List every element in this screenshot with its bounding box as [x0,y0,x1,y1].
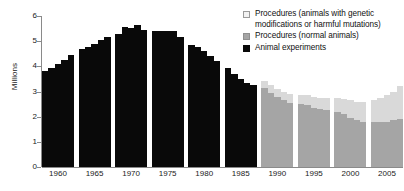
legend-item-normal[interactable]: Procedures (normal animals) [243,31,404,42]
x-tick-label: 1970 [114,170,148,178]
legend: Procedures (animals with genetic modific… [243,9,404,55]
y-tick-mark [37,92,41,93]
y-tick-mark [37,66,41,67]
bar-segment-animal-experiments [141,30,147,167]
y-tick-mark [37,41,41,42]
bar [68,16,74,167]
bar-segment-genetic [360,102,366,122]
bar-segment-normal-animals [397,119,403,167]
bar [141,16,147,167]
y-axis-title: Millions [10,42,19,112]
y-tick-label: 5 [24,37,37,45]
x-tick-label: 2005 [370,170,404,178]
bar-segment-animal-experiments [214,61,220,167]
y-tick-label: 2 [24,113,37,121]
x-tick-label: 1990 [260,170,294,178]
bar-segment-normal-animals [287,103,293,167]
legend-swatch-normal-icon [243,33,250,40]
bar-segment-genetic [323,98,329,111]
legend-item-genetic[interactable]: Procedures (animals with genetic modific… [243,9,404,30]
x-axis-line [42,167,403,168]
bar-segment-animal-experiments [104,37,110,167]
bar [214,16,220,167]
legend-swatch-animal-experiments-icon [243,45,250,52]
y-tick-mark [37,167,41,168]
bar [104,16,110,167]
x-tick-label: 1980 [187,170,221,178]
legend-label-genetic: Procedures (animals with genetic modific… [255,9,404,30]
bar-chart: Millions 0123456 19601965197019751980198… [0,0,404,191]
bar-segment-genetic [287,94,293,103]
legend-swatch-genetic-icon [243,11,250,18]
y-tick-mark [37,142,41,143]
x-tick-label: 1995 [297,170,331,178]
x-tick-label: 1985 [224,170,258,178]
y-tick-label: 6 [24,12,37,20]
x-tick-label: 1960 [41,170,75,178]
x-tick-label: 1975 [151,170,185,178]
bar-segment-genetic [397,86,403,119]
x-tick-label: 1965 [78,170,112,178]
bar-segment-normal-animals [360,122,366,167]
bar-segment-normal-animals [323,110,329,167]
y-tick-label: 0 [24,163,37,171]
legend-label-normal: Procedures (normal animals) [255,31,404,42]
y-tick-mark [37,117,41,118]
y-tick-mark [37,16,41,17]
bar [177,16,183,167]
legend-item-animal-experiments[interactable]: Animal experiments [243,43,404,54]
y-tick-label: 1 [24,138,37,146]
x-tick-label: 2000 [333,170,367,178]
bar-segment-animal-experiments [177,37,183,167]
y-tick-label: 3 [24,88,37,96]
bar-segment-animal-experiments [250,85,256,167]
legend-label-animal-experiments: Animal experiments [255,43,404,54]
bar-segment-animal-experiments [68,55,74,167]
y-tick-label: 4 [24,62,37,70]
